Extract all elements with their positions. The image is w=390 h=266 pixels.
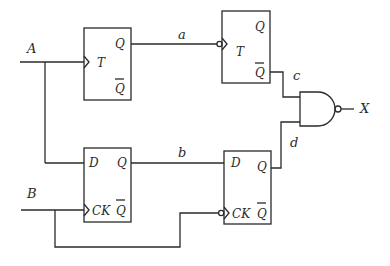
label-input-b: B: [26, 186, 37, 201]
pin-q: Q: [117, 156, 127, 170]
flipflop-t-2: T Q Q: [217, 11, 270, 83]
pin-qbar: Q: [255, 66, 265, 80]
label-output-x: X: [359, 101, 370, 116]
pin-ck: CK: [232, 207, 251, 221]
pin-qbar: Q: [257, 207, 267, 221]
label-signal-d: d: [290, 135, 298, 150]
pin-qbar: Q: [115, 82, 125, 96]
pin-d: D: [230, 156, 241, 170]
pin-t: T: [97, 56, 106, 70]
circuit-diagram: A T Q Q a T Q Q c X d D Q CK Q: [0, 0, 390, 266]
flipflop-t-1: T Q Q: [84, 28, 131, 100]
label-signal-a: a: [178, 27, 186, 42]
pin-t: T: [236, 45, 245, 59]
label-signal-b: b: [178, 145, 186, 160]
label-input-a: A: [26, 41, 36, 56]
inversion-bubble-icon: [217, 41, 222, 46]
label-signal-c: c: [293, 68, 301, 83]
pin-qbar: Q: [116, 204, 126, 218]
inversion-bubble-icon: [219, 210, 224, 215]
pin-q: Q: [257, 160, 267, 174]
nand-gate: [300, 92, 354, 126]
pin-d: D: [88, 156, 99, 170]
flipflop-d-4: D Q CK Q: [219, 151, 271, 224]
inversion-bubble-icon: [335, 106, 341, 112]
pin-q: Q: [255, 20, 265, 34]
wire-b-branch: [55, 210, 218, 247]
pin-ck: CK: [92, 204, 111, 218]
pin-q: Q: [115, 37, 125, 51]
flipflop-d-3: D Q CK Q: [84, 148, 131, 222]
